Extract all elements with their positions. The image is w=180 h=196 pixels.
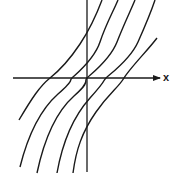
curve-3 <box>37 0 135 173</box>
x-axis-label: x <box>163 71 169 83</box>
curve-2 <box>20 0 118 167</box>
curve-family-diagram <box>0 0 180 196</box>
curve-5 <box>73 38 157 173</box>
